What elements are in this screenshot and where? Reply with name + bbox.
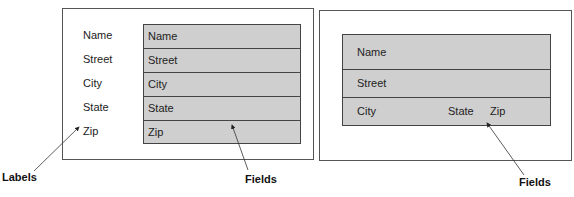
callout-arrows — [0, 0, 574, 197]
fields-right-arrow-icon — [487, 123, 524, 175]
labels-arrow-icon — [34, 127, 79, 171]
fields-left-arrow-icon — [232, 125, 248, 170]
